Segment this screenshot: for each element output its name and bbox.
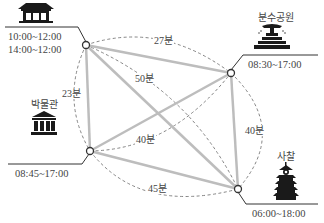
palace-hours-1: 10:00~12:00: [8, 30, 62, 43]
fountain-icon: [254, 24, 290, 49]
edge-palace-museum: [86, 45, 90, 151]
solid-edges: [86, 45, 238, 189]
edge-museum-fountain: [90, 73, 231, 151]
edge-label-palace-temple: 50분: [134, 73, 155, 84]
pagoda-icon: [273, 162, 299, 200]
museum-icon: [31, 111, 57, 135]
route-diagram: 10:00~12:00 14:00~12:00 분수공원 08:30~17:00…: [0, 0, 324, 223]
edge-fountain-temple: [231, 73, 238, 189]
edge-label-palace-fountain: 27분: [153, 35, 174, 46]
node-temple: [235, 186, 242, 193]
museum-hours: 08:45~17:00: [15, 167, 69, 180]
fountain-park-hours: 08:30~17:00: [248, 58, 302, 71]
node-museum: [87, 148, 94, 155]
museum-name: 박물관: [31, 96, 58, 111]
edge-label-fountain-temple: 40분: [244, 125, 265, 136]
temple-hours: 06:00~18:00: [252, 207, 306, 220]
node-fountain-park: [228, 70, 235, 77]
node-palace: [83, 42, 90, 49]
palace-hours-2: 14:00~12:00: [8, 43, 62, 56]
edge-palace-temple: [86, 45, 238, 189]
edge-label-palace-museum: 23분: [61, 88, 82, 99]
fountain-park-name: 분수공원: [258, 9, 294, 24]
edge-label-museum-fountain: 40분: [135, 134, 156, 145]
edge-label-museum-temple: 45분: [147, 183, 168, 194]
temple-name: 사찰: [277, 148, 295, 163]
palace-icon: [18, 3, 54, 23]
